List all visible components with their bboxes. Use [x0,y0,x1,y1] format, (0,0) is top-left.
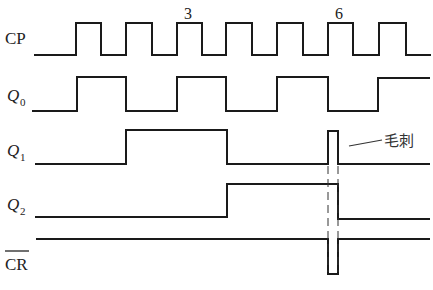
signal-label-cr: CR [5,251,29,274]
waveform-cr [36,239,430,274]
timing-diagram: CP Q 0 Q 1 Q 2 CR 3 6 毛刺 [0,0,433,290]
svg-text:0: 0 [20,96,26,108]
waveform-q2 [35,184,430,219]
svg-text:1: 1 [20,151,26,163]
pulse-marker-3: 3 [184,5,192,22]
svg-text:Q: Q [7,141,19,160]
svg-text:CR: CR [5,255,28,274]
annotation-leader-line [349,140,382,146]
svg-text:2: 2 [20,205,26,217]
svg-text:Q: Q [7,195,19,214]
waveform-q1 [35,130,430,164]
glitch-annotation: 毛刺 [384,132,414,150]
pulse-marker-6: 6 [335,5,343,22]
waveform-q0 [32,77,430,111]
signal-label-q2: Q 2 [7,195,26,217]
signal-label-cp: CP [5,29,26,48]
svg-text:Q: Q [7,86,19,105]
signal-label-q0: Q 0 [7,86,26,108]
waveform-cp [34,23,431,55]
signal-label-q1: Q 1 [7,141,26,163]
